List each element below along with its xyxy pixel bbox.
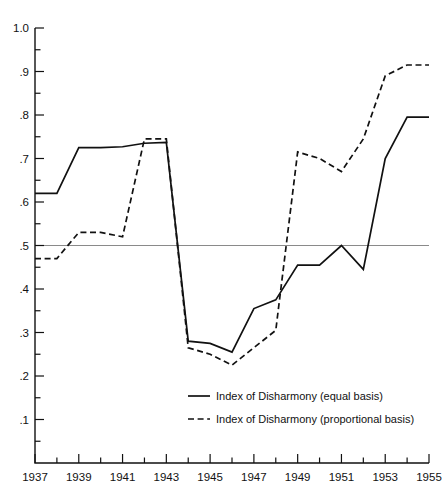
data-series-group — [35, 65, 429, 365]
y-axis-tick-labels: 1.0.9.8.7.6.5.4.3.2.1 — [13, 22, 30, 426]
y-tick-label: .5 — [19, 240, 29, 252]
x-tick-label: 1947 — [241, 471, 267, 483]
chart-container: 1.0.9.8.7.6.5.4.3.2.1 193719391941194319… — [0, 0, 447, 493]
y-tick-label: .2 — [19, 370, 29, 382]
y-tick-label: .6 — [19, 196, 29, 208]
y-axis-ticks — [35, 28, 44, 441]
x-axis-ticks — [35, 454, 429, 463]
y-tick-label: 1.0 — [13, 22, 29, 34]
x-tick-label: 1937 — [22, 471, 48, 483]
y-tick-label: .9 — [19, 66, 29, 78]
x-tick-label: 1941 — [110, 471, 136, 483]
line-chart: 1.0.9.8.7.6.5.4.3.2.1 193719391941194319… — [0, 0, 447, 493]
legend-label-1: Index of Disharmony (equal basis) — [216, 390, 383, 402]
x-tick-label: 1955 — [416, 471, 442, 483]
y-tick-label: .8 — [19, 109, 29, 121]
x-tick-label: 1951 — [329, 471, 355, 483]
x-tick-label: 1949 — [285, 471, 311, 483]
chart-legend: Index of Disharmony (equal basis)Index o… — [188, 390, 414, 425]
y-tick-label: .3 — [19, 327, 29, 339]
y-tick-label: .4 — [19, 283, 29, 295]
y-tick-label: .1 — [19, 414, 29, 426]
x-tick-label: 1953 — [372, 471, 398, 483]
x-tick-label: 1945 — [197, 471, 223, 483]
x-tick-label: 1939 — [66, 471, 92, 483]
legend-label-2: Index of Disharmony (proportional basis) — [216, 413, 414, 425]
series-line-2 — [35, 65, 429, 365]
x-axis-tick-labels: 1937193919411943194519471949195119531955 — [22, 471, 442, 483]
series-line-1 — [35, 117, 429, 352]
x-tick-label: 1943 — [154, 471, 180, 483]
y-tick-label: .7 — [19, 153, 29, 165]
